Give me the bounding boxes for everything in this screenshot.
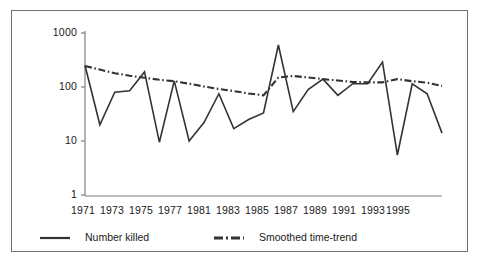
chart-figure: 1000 100 10 1 1971 1973 1975 1977 1981 1… bbox=[0, 0, 481, 261]
y-tick-label-3: 1 bbox=[33, 189, 77, 200]
chart-plot-area bbox=[0, 0, 481, 261]
y-tick-label-0: 1000 bbox=[33, 27, 77, 38]
legend-label-smoothed-time-trend: Smoothed time-trend bbox=[259, 231, 357, 243]
y-tick-label-1: 100 bbox=[33, 81, 77, 92]
legend-swatch-solid-line bbox=[40, 236, 70, 240]
series-line-number-killed bbox=[85, 45, 442, 155]
legend-swatch-dash-dot-line bbox=[214, 236, 244, 240]
legend-label-number-killed: Number killed bbox=[85, 231, 149, 243]
x-tick-label-11: 1995 bbox=[378, 205, 418, 216]
y-tick-label-2: 10 bbox=[33, 135, 77, 146]
chart-legend: Number killed Smoothed time-trend bbox=[40, 228, 460, 248]
